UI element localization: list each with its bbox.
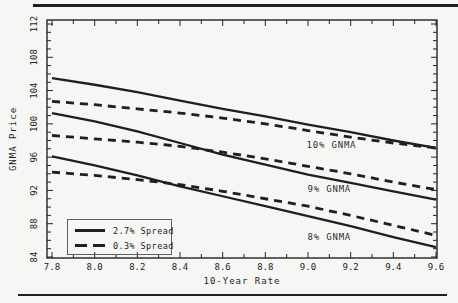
y-tick-label: 96 — [29, 152, 39, 163]
figure-page: 7.88.08.28.48.68.89.09.29.49.68488929610… — [0, 0, 458, 303]
x-axis-title: 10-Year Rate — [47, 276, 437, 286]
legend-box: 2.7% Spread 0.3% Spread — [67, 219, 172, 255]
legend-label: 0.3% Spread — [113, 241, 174, 251]
x-tick-label: 9.0 — [300, 262, 316, 272]
x-tick-label: 8.8 — [257, 262, 273, 272]
x-tick-label: 8.2 — [129, 262, 145, 272]
chart-canvas: 7.88.08.28.48.68.89.09.29.49.68488929610… — [0, 0, 458, 303]
y-tick-label: 112 — [29, 16, 39, 32]
y-tick-label: 100 — [29, 116, 39, 132]
bottom-rule — [18, 294, 447, 296]
x-tick-label: 8.4 — [172, 262, 188, 272]
series-line-2 — [52, 113, 436, 200]
y-tick-label: 84 — [29, 252, 39, 263]
series-line-0 — [52, 78, 436, 148]
x-tick-label: 7.8 — [44, 262, 60, 272]
series-label-9pct-gnma: 9% GNMA — [308, 184, 352, 194]
x-tick-label: 9.4 — [385, 262, 401, 272]
x-tick-label: 8.0 — [87, 262, 103, 272]
solid-line-sample-icon — [75, 229, 105, 232]
y-tick-label: 92 — [29, 185, 39, 196]
dashed-line-sample-icon — [75, 244, 105, 247]
y-tick-label: 108 — [29, 49, 39, 65]
series-line-3 — [52, 136, 436, 190]
series-label-10pct-gnma: 10% GNMA — [307, 140, 357, 150]
legend-entry-dashed: 0.3% Spread — [75, 240, 171, 251]
x-tick-label: 9.2 — [343, 262, 359, 272]
y-tick-label: 88 — [29, 218, 39, 229]
y-axis-title: GNMA Price — [8, 107, 18, 171]
series-label-8pct-gnma: 8% GNMA — [308, 232, 352, 242]
legend-label: 2.7% Spread — [113, 226, 174, 236]
y-tick-label: 104 — [29, 82, 39, 98]
x-tick-label: 8.6 — [215, 262, 231, 272]
legend-entry-solid: 2.7% Spread — [75, 225, 171, 236]
x-tick-label: 9.6 — [428, 262, 444, 272]
